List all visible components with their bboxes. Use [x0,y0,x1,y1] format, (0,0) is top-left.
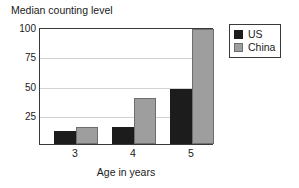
plot-area [39,28,213,145]
bar-china-age-4[interactable] [134,98,156,144]
bar-china-age-3[interactable] [76,127,98,144]
y-tick-label: 50 [2,83,36,93]
gray-swatch-icon [234,43,243,52]
bar-china-age-5[interactable] [192,29,214,144]
legend-label-us: US [248,29,263,40]
legend-item-us[interactable]: US [234,28,275,41]
legend-label-china: China [248,42,275,53]
y-tick-label: 25 [2,112,36,122]
x-tick-label-0: 3 [53,147,97,159]
x-axis-tick-labels: 3 4 5 [39,147,213,161]
legend-item-china[interactable]: China [234,41,275,54]
chart-title: Median counting level [11,4,113,16]
chart-legend: US China [229,24,281,58]
y-tick-label: 100 [2,24,36,34]
x-tick-label-1: 4 [111,147,155,159]
bar-us-age-3[interactable] [54,131,76,144]
bar-chart: Median counting level 100 75 50 25 [0,0,299,188]
bars-layer [40,29,212,144]
bar-group-age-4 [112,29,158,144]
bar-us-age-4[interactable] [112,127,134,144]
black-swatch-icon [234,30,243,39]
bar-us-age-5[interactable] [170,89,192,144]
x-tick-label-2: 5 [169,147,213,159]
x-axis-title: Age in years [39,166,213,178]
bar-group-age-5 [170,29,216,144]
y-tick-label: 75 [2,53,36,63]
bar-group-age-3 [54,29,100,144]
y-axis-tick-labels: 100 75 50 25 [0,28,36,145]
